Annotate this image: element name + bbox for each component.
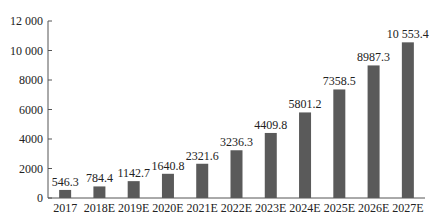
bar-value-label: 1142.7 [117,166,150,180]
bar-value-label: 8987.3 [357,50,390,64]
y-tick-label: 0 [37,191,43,205]
x-tick-label: 2019E [118,201,149,215]
y-tick-label: 4000 [19,132,43,146]
bar [162,174,174,198]
bar [196,164,208,198]
x-tick-label: 2024E [289,201,320,215]
bar-value-label: 3236.3 [220,135,253,149]
y-tick-label: 10 000 [10,44,43,58]
bar [368,65,380,198]
bar-value-label: 1640.8 [151,159,184,173]
x-tick-label: 2017 [53,201,77,215]
bar [128,181,140,198]
bar-value-label: 10 553.4 [387,27,429,41]
bar [59,190,71,198]
y-tick-label: 8000 [19,73,43,87]
bar [333,89,345,198]
y-tick-label: 6000 [19,103,43,117]
bar-value-label: 4409.8 [254,118,287,132]
x-tick-label: 2026E [358,201,389,215]
bar [402,42,414,198]
bar-chart: 0200040006000800010 00012 000546.3201778… [0,0,431,224]
x-tick-label: 2023E [255,201,286,215]
x-tick-label: 2025E [324,201,355,215]
bar-value-label: 546.3 [52,175,79,189]
bar [265,133,277,198]
bar-value-label: 784.4 [86,171,113,185]
bar-value-label: 7358.5 [323,74,356,88]
bar [93,186,105,198]
x-tick-label: 2022E [221,201,252,215]
chart-canvas: 0200040006000800010 00012 000546.3201778… [0,0,431,224]
x-tick-label: 2020E [152,201,183,215]
bar [299,112,311,198]
x-tick-label: 2027E [392,201,423,215]
bar-value-label: 5801.2 [289,97,322,111]
y-tick-label: 12 000 [10,14,43,28]
bar-value-label: 2321.6 [186,149,219,163]
bar [231,150,243,198]
x-tick-label: 2021E [187,201,218,215]
y-tick-label: 2000 [19,162,43,176]
x-tick-label: 2018E [84,201,115,215]
